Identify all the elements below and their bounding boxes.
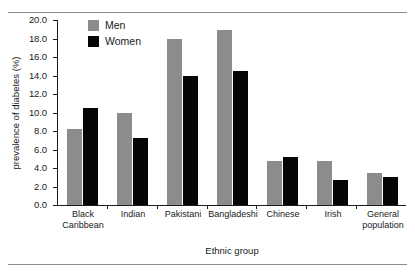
bar-men-irish[interactable]	[317, 161, 332, 205]
y-tick-label: 14.0	[29, 71, 47, 81]
bar-women-general-population[interactable]	[383, 177, 398, 205]
x-axis-title: Ethnic group	[57, 245, 407, 256]
y-tick-label: 16.0	[29, 52, 47, 62]
x-category-label-line: Chinese	[258, 209, 308, 220]
y-axis-title: prevalence of diabetes (%)	[10, 56, 21, 169]
x-category-label: Irish	[308, 209, 358, 230]
y-tick-label: 20.0	[29, 15, 47, 25]
bar-women-black-caribbean[interactable]	[83, 108, 98, 205]
x-category-label: Chinese	[258, 209, 308, 230]
x-axis-category-labels: BlackCaribbeanIndianPakistaniBangladeshi…	[58, 209, 408, 230]
x-category-label: Generalpopulation	[358, 209, 408, 230]
bar-men-chinese[interactable]	[267, 161, 282, 205]
y-tick-label: 18.0	[29, 34, 47, 44]
bar-women-pakistani[interactable]	[183, 76, 198, 205]
top-divider-rule	[8, 12, 407, 13]
y-tick-mark	[53, 187, 57, 188]
y-tick-mark	[53, 150, 57, 151]
figure-container: prevalence of diabetes (%) 20.018.016.01…	[0, 0, 415, 277]
x-category-label-line: Pakistani	[158, 209, 208, 220]
y-tick-mark	[53, 131, 57, 132]
legend-label: Men	[105, 20, 125, 31]
x-category-label-line: Caribbean	[58, 220, 108, 231]
bar-group	[357, 20, 407, 205]
y-tick-mark	[53, 57, 57, 58]
y-tick-mark	[53, 76, 57, 77]
bar-group	[257, 20, 307, 205]
x-category-label-line: Irish	[308, 209, 358, 220]
bar-women-chinese[interactable]	[283, 157, 298, 205]
bar-group	[208, 20, 258, 205]
x-category-label: Indian	[108, 209, 158, 230]
y-tick-label: 8.0	[34, 126, 47, 136]
y-tick-label: 4.0	[34, 163, 47, 173]
x-category-label: Bangladeshi	[208, 209, 258, 230]
x-category-label: BlackCaribbean	[58, 209, 108, 230]
bar-men-pakistani[interactable]	[167, 39, 182, 205]
x-category-label-line: population	[358, 220, 408, 231]
y-tick-mark	[53, 168, 57, 169]
y-tick-label: 0.0	[34, 200, 47, 210]
x-category-label: Pakistani	[158, 209, 208, 230]
bar-group	[158, 20, 208, 205]
y-tick-mark	[53, 113, 57, 114]
y-tick-label: 2.0	[34, 182, 47, 192]
bar-women-bangladeshi[interactable]	[233, 71, 248, 205]
y-tick-label: 10.0	[29, 108, 47, 118]
y-tick-mark	[53, 205, 57, 206]
x-category-label-line: Black	[58, 209, 108, 220]
bar-men-black-caribbean[interactable]	[67, 129, 82, 205]
bar-group	[307, 20, 357, 205]
legend-item[interactable]: Men	[88, 20, 141, 31]
x-category-label-line: General	[358, 209, 408, 220]
bar-men-bangladeshi[interactable]	[217, 30, 232, 205]
bar-women-indian[interactable]	[133, 138, 148, 205]
chart-legend: MenWomen	[88, 20, 141, 52]
bar-men-indian[interactable]	[117, 113, 132, 205]
legend-swatch-men	[88, 20, 99, 31]
x-category-label-line: Bangladeshi	[208, 209, 258, 220]
bar-women-irish[interactable]	[333, 180, 348, 205]
bar-men-general-population[interactable]	[367, 173, 382, 205]
y-tick-label: 6.0	[34, 145, 47, 155]
x-category-label-line: Indian	[108, 209, 158, 220]
y-tick-label: 12.0	[29, 89, 47, 99]
y-tick-mark	[53, 39, 57, 40]
legend-swatch-women	[88, 36, 99, 47]
y-tick-mark	[53, 94, 57, 95]
legend-item[interactable]: Women	[88, 36, 141, 47]
bottom-divider-rule	[8, 264, 407, 265]
legend-label: Women	[105, 36, 141, 47]
y-tick-mark	[53, 20, 57, 21]
